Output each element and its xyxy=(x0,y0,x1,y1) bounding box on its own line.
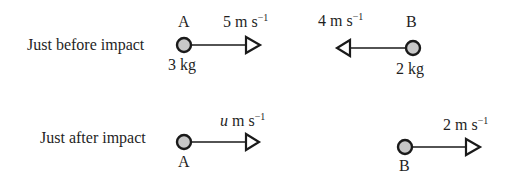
after-particle-b-name: B xyxy=(399,158,410,174)
before-particle-a-mass: 3 kg xyxy=(168,57,196,73)
collision-diagram: Just before impact A 3 kg 5 m s−1 B 2 kg… xyxy=(0,0,531,184)
velocity-value: u xyxy=(220,112,228,129)
after-particle-b-velocity: 2 m s−1 xyxy=(443,117,488,133)
velocity-unit: m s xyxy=(330,12,353,29)
before-particle-a-icon xyxy=(177,38,191,52)
before-particle-b-name: B xyxy=(406,14,417,30)
before-particle-a-velocity: 5 m s−1 xyxy=(223,14,268,30)
before-particle-b-mass: 2 kg xyxy=(396,61,424,77)
after-row-label: Just after impact xyxy=(40,130,146,146)
velocity-value: 5 xyxy=(223,13,231,30)
before-row-label: Just before impact xyxy=(27,37,144,53)
velocity-unit: m s xyxy=(232,112,255,129)
before-a-velocity-arrow-icon xyxy=(190,37,260,53)
before-particle-a-name: A xyxy=(178,14,190,30)
velocity-exponent: −1 xyxy=(255,111,266,122)
after-particle-a-velocity: u m s−1 xyxy=(220,113,265,129)
after-b-velocity-arrow-icon xyxy=(411,139,480,155)
before-b-velocity-arrow-icon xyxy=(337,40,407,56)
after-particle-b-icon xyxy=(398,140,412,154)
velocity-exponent: −1 xyxy=(353,11,364,22)
before-particle-b-velocity: 4 m s−1 xyxy=(318,13,363,29)
after-a-velocity-arrow-icon xyxy=(190,134,259,150)
velocity-exponent: −1 xyxy=(258,12,269,23)
velocity-unit: m s xyxy=(455,116,478,133)
before-particle-b-icon xyxy=(406,41,420,55)
after-particle-a-name: A xyxy=(178,154,190,170)
after-particle-a-icon xyxy=(177,135,191,149)
velocity-value: 4 xyxy=(318,12,326,29)
velocity-unit: m s xyxy=(235,13,258,30)
velocity-exponent: −1 xyxy=(478,115,489,126)
velocity-value: 2 xyxy=(443,116,451,133)
